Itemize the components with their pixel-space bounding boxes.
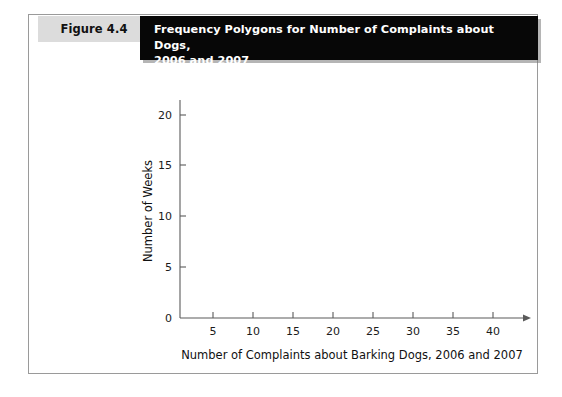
x-tick-label-30: 30 xyxy=(406,325,420,338)
x-tick-label-35: 35 xyxy=(446,325,460,338)
y-tick-label-20: 20 xyxy=(158,109,172,122)
x-tick-label-40: 40 xyxy=(486,325,500,338)
x-tick-label-10: 10 xyxy=(246,325,260,338)
y-tick-label-5: 5 xyxy=(165,261,172,274)
y-axis-ticks xyxy=(180,115,186,267)
chart-svg: 20 15 10 5 0 5 10 15 20 25 30 35 40 Numb… xyxy=(28,14,538,374)
x-tick-label-20: 20 xyxy=(326,325,340,338)
x-axis-arrow-icon xyxy=(523,315,531,322)
y-axis-title: Number of Weeks xyxy=(141,160,155,262)
y-tick-label-0: 0 xyxy=(165,312,172,325)
x-tick-label-25: 25 xyxy=(366,325,380,338)
x-tick-label-15: 15 xyxy=(286,325,300,338)
x-axis-title: Number of Complaints about Barking Dogs,… xyxy=(181,348,523,362)
x-axis-ticks xyxy=(213,312,493,318)
x-tick-label-5: 5 xyxy=(210,325,217,338)
y-tick-label-15: 15 xyxy=(158,159,172,172)
y-tick-label-10: 10 xyxy=(158,210,172,223)
chart-plot-area: 20 15 10 5 0 5 10 15 20 25 30 35 40 Numb… xyxy=(28,14,538,374)
